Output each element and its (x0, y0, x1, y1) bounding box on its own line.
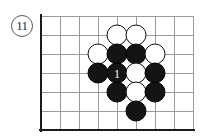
stone-white[interactable] (88, 44, 109, 65)
stone-black-numbered[interactable]: 1 (107, 63, 128, 84)
stone-white[interactable] (107, 25, 128, 46)
stone-white[interactable] (126, 82, 147, 103)
stone-black[interactable] (145, 82, 166, 103)
problem-number-badge: 11 (11, 15, 33, 37)
stone-move-number: 1 (114, 67, 120, 79)
stone-black[interactable] (126, 101, 147, 122)
go-board[interactable]: 1 (36, 10, 208, 132)
stone-white[interactable] (126, 63, 147, 84)
stone-black[interactable] (107, 44, 128, 65)
stone-black[interactable] (88, 63, 109, 84)
stone-black[interactable] (145, 63, 166, 84)
problem-number-label: 11 (17, 20, 28, 32)
stone-black[interactable] (126, 44, 147, 65)
stone-white[interactable] (145, 44, 166, 65)
stone-black[interactable] (107, 82, 128, 103)
stones-layer: 1 (36, 10, 208, 132)
stone-white[interactable] (126, 25, 147, 46)
go-problem-diagram: 11 1 (0, 0, 210, 140)
